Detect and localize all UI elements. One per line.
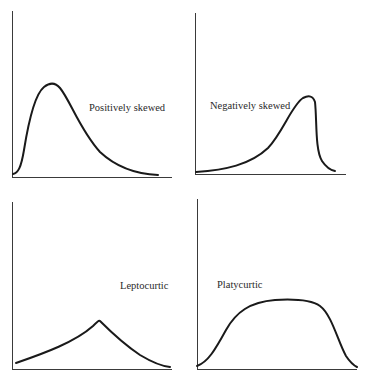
panel-positively-skewed: Positively skewed (12, 11, 172, 178)
label-leptocurtic: Leptocurtic (120, 280, 169, 291)
panel-platycurtic: Platycurtic (197, 199, 357, 370)
distribution-shapes-diagram: Positively skewed Negatively skewed Lept… (0, 0, 369, 379)
panel-negatively-skewed: Negatively skewed (195, 13, 346, 175)
positively-skewed-curve (13, 84, 158, 175)
label-negatively-skewed: Negatively skewed (210, 100, 291, 111)
platycurtic-curve (197, 300, 357, 367)
panel-leptocurtic: Leptocurtic (12, 202, 172, 370)
label-platycurtic: Platycurtic (217, 279, 263, 290)
label-positively-skewed: Positively skewed (89, 102, 166, 113)
leptocurtic-curve (16, 321, 170, 367)
